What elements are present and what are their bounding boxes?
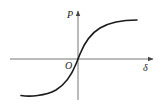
y-axis-label: P xyxy=(66,9,73,20)
x-axis-label: δ xyxy=(143,62,148,73)
sigmoid-curve xyxy=(21,20,137,96)
origin-label: O xyxy=(65,60,72,71)
p-delta-diagram: P δ O xyxy=(0,0,168,107)
